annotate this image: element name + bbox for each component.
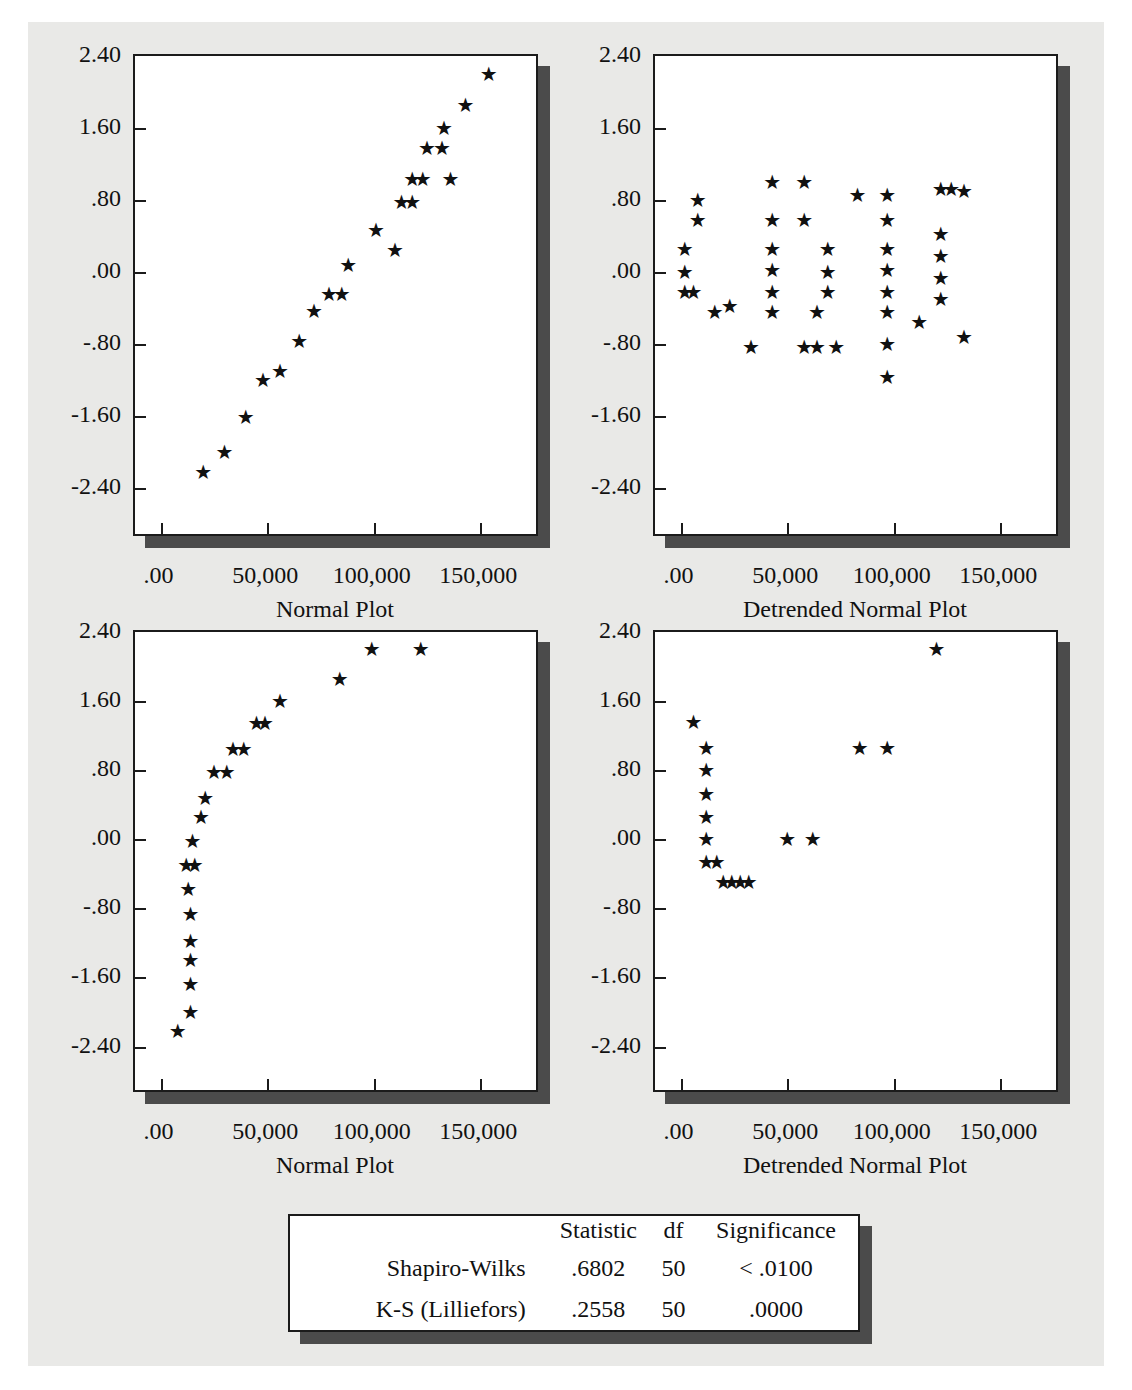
x-axis-tick-label: 50,000 <box>752 1118 818 1145</box>
data-point-marker: ★ <box>456 94 474 114</box>
y-axis-tick <box>135 416 146 418</box>
data-point-marker: ★ <box>184 831 202 851</box>
y-axis-tick <box>655 977 666 979</box>
data-point-marker: ★ <box>339 255 357 275</box>
x-axis-tick-label: 50,000 <box>752 562 818 589</box>
x-axis-tick <box>161 1079 163 1090</box>
data-point-marker: ★ <box>878 210 896 230</box>
y-axis-tick-label: -1.60 <box>41 962 121 989</box>
data-point-marker: ★ <box>740 872 758 892</box>
x-axis-tick-label: 50,000 <box>232 562 298 589</box>
y-axis-tick <box>655 908 666 910</box>
data-point-marker: ★ <box>878 238 896 258</box>
x-axis-tick <box>681 1079 683 1090</box>
data-point-marker: ★ <box>849 184 867 204</box>
data-point-marker: ★ <box>676 238 694 258</box>
y-axis-tick-label: .00 <box>41 824 121 851</box>
statistic-ks-lilliefors: .2558 <box>544 1289 653 1330</box>
data-point-marker: ★ <box>778 829 796 849</box>
data-point-marker: ★ <box>386 239 404 259</box>
data-point-marker: ★ <box>181 903 199 923</box>
x-axis-tick <box>787 1079 789 1090</box>
y-axis-tick <box>655 1047 666 1049</box>
y-axis-tick <box>135 1047 146 1049</box>
data-point-marker: ★ <box>795 172 813 192</box>
data-point-marker: ★ <box>216 442 234 462</box>
data-point-marker: ★ <box>697 737 715 757</box>
y-axis-tick-label: .80 <box>561 755 641 782</box>
detrended-normal-plot-panel-bottom-right: ★★★★★★★★★★★★★★★★★ <box>653 630 1058 1092</box>
plot-caption-bottom-left: Normal Plot <box>276 1152 394 1179</box>
y-axis-tick-label: .00 <box>41 257 121 284</box>
y-axis-tick-label: -.80 <box>561 329 641 356</box>
data-point-marker: ★ <box>194 462 212 482</box>
x-axis-tick <box>480 1079 482 1090</box>
table-header-row: Statistic df Significance <box>290 1216 858 1248</box>
y-axis-tick <box>135 200 146 202</box>
data-point-marker: ★ <box>684 711 702 731</box>
panel-frame: ★★★★★★★★★★★★★★★★★★★★★★ <box>133 54 538 536</box>
x-axis-tick <box>480 523 482 534</box>
data-point-marker: ★ <box>763 301 781 321</box>
y-axis-tick <box>655 770 666 772</box>
data-point-marker: ★ <box>179 879 197 899</box>
y-axis-tick-label: -1.60 <box>561 962 641 989</box>
y-axis-tick-label: -1.60 <box>561 401 641 428</box>
data-point-marker: ★ <box>181 1002 199 1022</box>
y-axis-tick <box>655 701 666 703</box>
data-point-marker: ★ <box>684 282 702 302</box>
table-header-blank <box>290 1216 544 1248</box>
x-axis-tick-label: .00 <box>144 562 174 589</box>
data-point-marker: ★ <box>808 301 826 321</box>
y-axis-tick-label: .80 <box>41 185 121 212</box>
data-point-marker: ★ <box>442 168 460 188</box>
plot-area-bottom-left: ★★★★★★★★★★★★★★★★★★★★★★ <box>135 632 536 1090</box>
x-axis-tick-label: 100,000 <box>853 1118 931 1145</box>
table-header-df: df <box>653 1216 694 1248</box>
df-shapiro-wilks: 50 <box>653 1248 694 1289</box>
data-point-marker: ★ <box>932 224 950 244</box>
data-point-marker: ★ <box>763 260 781 280</box>
data-point-marker: ★ <box>689 210 707 230</box>
y-axis-tick-label: 2.40 <box>561 617 641 644</box>
df-ks-lilliefors: 50 <box>653 1289 694 1330</box>
data-point-marker: ★ <box>955 327 973 347</box>
data-point-marker: ★ <box>955 181 973 201</box>
plot-caption-top-right: Detrended Normal Plot <box>743 596 967 623</box>
data-point-marker: ★ <box>271 361 289 381</box>
y-axis-tick-label: .80 <box>561 185 641 212</box>
data-point-marker: ★ <box>932 289 950 309</box>
y-axis-tick <box>135 839 146 841</box>
data-point-marker: ★ <box>878 334 896 354</box>
data-point-marker: ★ <box>932 267 950 287</box>
y-axis-tick <box>655 344 666 346</box>
y-axis-tick <box>135 128 146 130</box>
data-point-marker: ★ <box>827 337 845 357</box>
normal-plot-panel-top-left: ★★★★★★★★★★★★★★★★★★★★★★ <box>133 54 538 536</box>
x-axis-tick <box>374 523 376 534</box>
normal-plot-panel-bottom-left: ★★★★★★★★★★★★★★★★★★★★★★ <box>133 630 538 1092</box>
table-header-statistic: Statistic <box>544 1216 653 1248</box>
y-axis-tick-label: -2.40 <box>561 473 641 500</box>
y-axis-tick-label: 2.40 <box>561 41 641 68</box>
data-point-marker: ★ <box>878 737 896 757</box>
y-axis-tick-label: -1.60 <box>41 401 121 428</box>
data-point-marker: ★ <box>819 282 837 302</box>
x-axis-tick <box>681 523 683 534</box>
data-point-marker: ★ <box>271 691 289 711</box>
y-axis-tick <box>655 200 666 202</box>
data-point-marker: ★ <box>697 806 715 826</box>
data-point-marker: ★ <box>367 219 385 239</box>
data-point-marker: ★ <box>763 238 781 258</box>
panel-frame: Statistic df Significance Shapiro-Wilks … <box>288 1214 860 1332</box>
y-axis-tick <box>135 344 146 346</box>
y-axis-tick <box>135 977 146 979</box>
y-axis-tick-label: -.80 <box>41 893 121 920</box>
x-axis-tick <box>787 523 789 534</box>
normality-tests-table-panel: Statistic df Significance Shapiro-Wilks … <box>288 1214 860 1332</box>
plot-area-top-right: ★★★★★★★★★★★★★★★★★★★★★★★★★★★★★★★★★★★★★★★★… <box>655 56 1056 534</box>
significance-ks-lilliefors: .0000 <box>694 1289 858 1330</box>
detrended-normal-plot-panel-top-right: ★★★★★★★★★★★★★★★★★★★★★★★★★★★★★★★★★★★★★★★★… <box>653 54 1058 536</box>
x-axis-tick-label: 100,000 <box>333 1118 411 1145</box>
data-point-marker: ★ <box>235 739 253 759</box>
